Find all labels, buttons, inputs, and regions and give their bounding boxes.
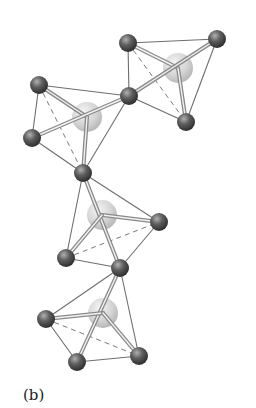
vertex-atom — [111, 259, 129, 277]
vertex-atom — [30, 76, 48, 94]
edge-bond — [128, 39, 217, 43]
polyhedron-edges — [32, 39, 217, 362]
vertex-atom — [150, 213, 168, 231]
polyhedral-chain-diagram — [0, 0, 256, 408]
double-bond-inner — [32, 96, 129, 138]
edge-bond — [77, 356, 139, 362]
edge-bond — [32, 138, 83, 173]
double-bond-inner — [129, 39, 217, 96]
vertex-atom — [23, 129, 41, 147]
vertex-atom — [74, 164, 92, 182]
vertex-atom — [120, 87, 138, 105]
edge-bond — [186, 39, 217, 122]
vertex-atom — [119, 34, 137, 52]
edge-bond — [129, 96, 186, 122]
vertex-atom — [208, 30, 226, 48]
panel-label: (b) — [23, 386, 44, 404]
vertex-atom — [57, 249, 75, 267]
vertex-atom — [37, 310, 55, 328]
edge-bond — [120, 222, 159, 268]
vertex-atom — [130, 347, 148, 365]
vertex-atoms — [23, 30, 226, 371]
vertex-atom — [177, 113, 195, 131]
vertex-atom — [68, 353, 86, 371]
